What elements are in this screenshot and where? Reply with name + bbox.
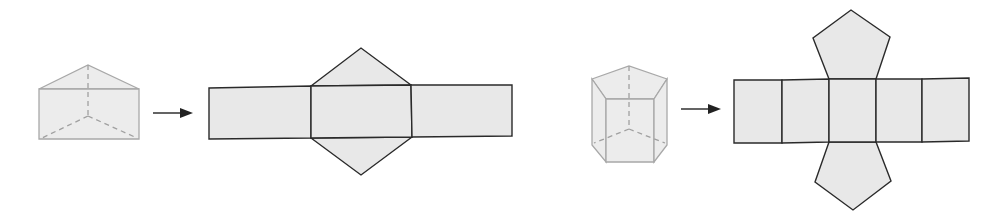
net-pentagon-bottom: [815, 142, 891, 210]
prism-top-face: [39, 65, 139, 89]
triangular-prism-solid: [39, 65, 139, 139]
prism-front-face: [606, 99, 654, 162]
net-triangle-bottom: [311, 137, 412, 175]
net-rect-1: [734, 80, 782, 143]
net-rect-right: [411, 85, 512, 137]
right-arrow-icon: [153, 108, 193, 118]
net-rect-left: [209, 86, 311, 139]
net-rect-3: [829, 79, 876, 142]
net-rect-5: [922, 78, 969, 142]
net-pentagon-top: [813, 10, 890, 79]
net-triangle-top: [311, 48, 411, 86]
net-rect-middle: [311, 85, 412, 138]
triangular-prism-net: [209, 48, 512, 175]
right-arrow-icon: [681, 104, 721, 114]
net-rect-4: [876, 79, 922, 142]
pentagonal-prism-net: [734, 10, 969, 210]
prism-nets-diagram: [0, 0, 1000, 214]
net-rect-2: [782, 79, 829, 143]
pentagonal-prism-solid: [592, 66, 667, 162]
